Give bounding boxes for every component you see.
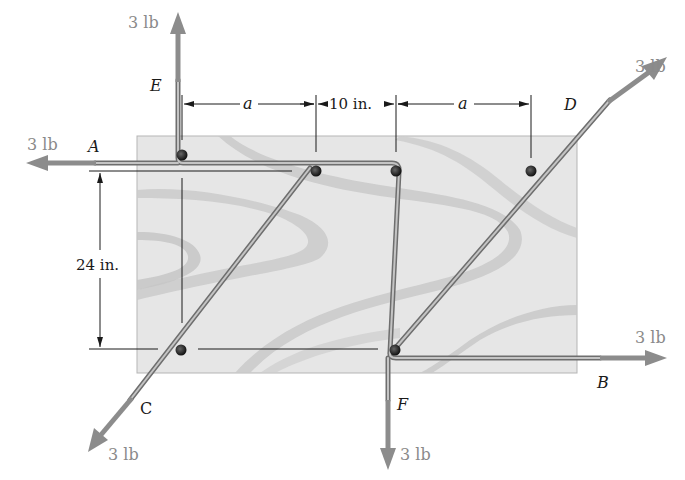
dimension-label-a-right: a bbox=[458, 94, 468, 113]
dimension-label-a-left: a bbox=[243, 94, 253, 113]
peg-d bbox=[526, 166, 537, 177]
dimension-label-10in: 10 in. bbox=[329, 95, 372, 113]
dimension-label-24in: 24 in. bbox=[76, 256, 119, 274]
force-arrow-f bbox=[380, 400, 396, 470]
force-arrow-e bbox=[170, 12, 186, 82]
force-label-d: 3 lb bbox=[635, 57, 666, 76]
peg-board-diagram: 3 lb 3 lb 3 lb 3 lb 3 lb 3 lb E A D B C … bbox=[0, 0, 685, 480]
peg-f bbox=[390, 345, 401, 356]
force-arrow-c bbox=[88, 398, 132, 452]
point-label-c: C bbox=[140, 399, 152, 418]
point-label-f: F bbox=[396, 395, 409, 414]
force-label-c: 3 lb bbox=[108, 445, 139, 464]
peg-top-middle-left bbox=[311, 166, 322, 177]
peg-top-middle-right bbox=[391, 166, 402, 177]
force-label-f: 3 lb bbox=[400, 445, 431, 464]
point-label-e: E bbox=[149, 76, 162, 95]
force-arrow-a bbox=[26, 155, 96, 171]
wooden-board bbox=[137, 136, 577, 373]
point-label-a: A bbox=[86, 137, 100, 156]
peg-e bbox=[177, 150, 188, 161]
point-label-d: D bbox=[563, 95, 577, 114]
force-label-e: 3 lb bbox=[128, 13, 159, 32]
force-label-a: 3 lb bbox=[27, 135, 58, 154]
point-label-b: B bbox=[596, 373, 609, 392]
force-arrow-b bbox=[600, 350, 667, 366]
force-label-b: 3 lb bbox=[635, 328, 666, 347]
peg-c bbox=[176, 345, 187, 356]
